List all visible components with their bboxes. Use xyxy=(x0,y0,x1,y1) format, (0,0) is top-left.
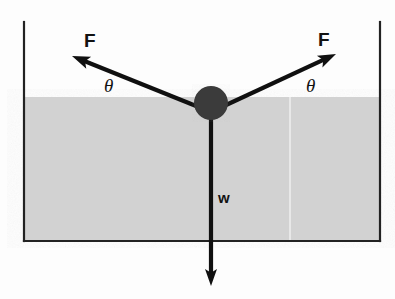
liquid-region xyxy=(25,97,379,240)
angle-label-left: θ xyxy=(104,76,113,95)
force-diagram-svg xyxy=(0,0,395,299)
force-label-right: F xyxy=(318,30,330,49)
ball xyxy=(194,86,228,120)
weight-label: w xyxy=(218,190,230,205)
angle-label-right: θ xyxy=(306,76,315,95)
figure-canvas: F F w θ θ xyxy=(0,0,395,299)
force-label-left: F xyxy=(84,31,96,50)
